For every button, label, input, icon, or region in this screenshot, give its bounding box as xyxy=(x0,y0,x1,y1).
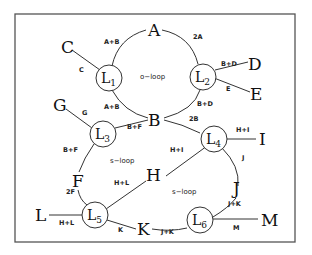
label-a-l1: A+B xyxy=(104,38,119,46)
node-e: E xyxy=(250,84,262,104)
label-l2-e: E xyxy=(226,85,230,93)
edge-c-l1 xyxy=(72,50,100,70)
label-h-l5: H+L xyxy=(114,179,129,187)
label-b-l4: 2B xyxy=(189,115,199,123)
loop-diagram: L1 L2 L3 L4 L5 L6 A B C D E F G H I J K … xyxy=(0,0,312,255)
edge-l1-a xyxy=(112,30,146,66)
node-k: K xyxy=(137,219,150,239)
edge-g-l3 xyxy=(66,109,92,128)
node-b: B xyxy=(148,110,161,130)
label-c-l1: C xyxy=(79,66,84,74)
loop-label-s-lower: s−loop xyxy=(172,188,197,196)
node-c: C xyxy=(61,37,74,57)
loop-node-l1: L1 xyxy=(96,65,122,91)
edge-f-l5 xyxy=(78,190,87,205)
label-l-l5: H+L xyxy=(59,219,74,227)
loop-node-l3: L3 xyxy=(90,121,116,147)
loop-node-l5: L5 xyxy=(82,202,108,228)
label-l6-m: M xyxy=(233,224,239,232)
loop-node-l6: L6 xyxy=(187,207,213,233)
label-l2-d: B+D xyxy=(221,60,237,68)
label-l5-k: K xyxy=(118,226,124,234)
loop-label-o: o−loop xyxy=(140,73,166,81)
label-l2-b: B+D xyxy=(197,100,213,108)
loop-node-l4: L4 xyxy=(201,126,227,152)
label-a-l2: 2A xyxy=(193,33,203,41)
label-l1-b: A+B xyxy=(104,103,119,111)
label-g-l3: G xyxy=(82,109,87,117)
node-i: I xyxy=(259,129,266,149)
edge-l3-f xyxy=(79,144,94,172)
label-l4-j: J xyxy=(241,154,244,162)
node-j: J xyxy=(231,178,240,198)
label-l4-i: H+I xyxy=(236,126,249,134)
edge-l2-b xyxy=(164,90,200,118)
label-k-l6: J+K xyxy=(160,228,175,236)
node-h: H xyxy=(146,165,161,185)
label-b-l3: B+F xyxy=(127,123,142,131)
loop-node-l2: L2 xyxy=(190,64,216,90)
node-a: A xyxy=(147,20,161,40)
node-l: L xyxy=(35,205,46,225)
label-l3-f: B+F xyxy=(63,146,78,154)
label-l4-h: H+I xyxy=(170,146,183,154)
node-g: G xyxy=(53,95,67,115)
label-j-l6: J+K xyxy=(227,200,242,208)
node-d: D xyxy=(248,54,262,74)
node-m: M xyxy=(261,210,278,230)
loop-label-s-upper: s−loop xyxy=(110,157,135,165)
label-f-l5: 2F xyxy=(66,188,75,196)
edge-l2-e xyxy=(214,78,250,92)
